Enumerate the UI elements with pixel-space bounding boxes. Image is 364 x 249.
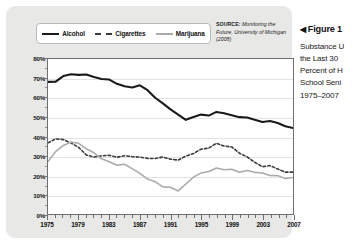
dashed-line-icon (95, 30, 112, 38)
x-tick-label: 2003 (256, 221, 269, 228)
x-tick-minor (70, 215, 71, 218)
x-tick-minor (186, 215, 187, 218)
x-axis-labels: 197519791983198719911995199920032007 (6, 221, 298, 233)
x-tick-minor (194, 215, 195, 218)
x-tick-label: 1991 (164, 221, 177, 228)
left-arrow-icon: ◀ (300, 25, 306, 34)
legend-item-marijuana: Marijuana (156, 30, 205, 38)
x-tick-minor (286, 215, 287, 218)
x-tick-major (78, 215, 79, 220)
x-tick-label: 1995 (195, 221, 208, 228)
x-tick-major (109, 215, 110, 220)
x-tick-minor (155, 215, 156, 218)
x-tick-minor (62, 215, 63, 218)
solid-dark-line-icon (42, 30, 59, 38)
x-tick-minor (248, 215, 249, 218)
x-tick-minor (240, 215, 241, 218)
chart-legend: Alcohol Cigarettes Marijuana (36, 23, 211, 44)
x-tick-label: 1983 (102, 221, 115, 228)
legend-label-marijuana: Marijuana (176, 30, 205, 37)
x-tick-minor (271, 215, 272, 218)
x-tick-major (232, 215, 233, 220)
legend-item-cigarettes: Cigarettes (95, 30, 145, 38)
series-lines (48, 59, 293, 214)
x-tick-label: 1999 (226, 221, 239, 228)
x-tick-label: 1975 (40, 221, 53, 228)
legend-label-cigarettes: Cigarettes (115, 30, 145, 37)
y-axis-labels: 80%70%60%50%40%30%20%10%0% (18, 52, 45, 222)
caption-line: Percent of H (300, 65, 364, 77)
x-tick-major (263, 215, 264, 220)
x-tick-major (294, 215, 295, 220)
caption-body: Substance Uthe Last 30 Percent of HSchoo… (300, 41, 364, 102)
legend-item-alcohol: Alcohol (42, 30, 85, 38)
caption-title: Figure 1 (308, 24, 342, 34)
series-line-cigarettes (48, 139, 293, 172)
solid-gray-line-icon (156, 30, 173, 38)
figure-screenshot: Alcohol Cigarettes Marijuana SOURCE: Mon… (0, 0, 364, 249)
x-tick-minor (116, 215, 117, 218)
x-tick-minor (178, 215, 179, 218)
x-tick-minor (225, 215, 226, 218)
x-tick-minor (147, 215, 148, 218)
caption-line: the Last 30 (300, 53, 364, 65)
x-tick-major (47, 215, 48, 220)
legend-label-alcohol: Alcohol (62, 30, 85, 37)
x-tick-label: 1987 (133, 221, 146, 228)
x-tick-minor (255, 215, 256, 218)
source-note-key: SOURCE: (216, 21, 240, 27)
figure-caption: ◀Figure 1 Substance Uthe Last 30 Percent… (300, 24, 364, 102)
x-tick-label: 2007 (287, 221, 300, 228)
x-tick-minor (217, 215, 218, 218)
x-tick-minor (101, 215, 102, 218)
caption-title-row: ◀Figure 1 (300, 24, 364, 34)
chart-panel: Alcohol Cigarettes Marijuana SOURCE: Mon… (6, 6, 292, 238)
x-tick-minor (209, 215, 210, 218)
x-tick-minor (55, 215, 56, 218)
source-note: SOURCE: Monitoring the Future, Universit… (216, 21, 290, 44)
x-tick-minor (86, 215, 87, 218)
series-line-alcohol (48, 74, 293, 128)
x-tick-major (201, 215, 202, 220)
caption-line: School Seni (300, 77, 364, 89)
x-axis-ticks (47, 215, 295, 220)
caption-line: Substance U (300, 41, 364, 53)
x-tick-major (140, 215, 141, 220)
x-tick-label: 1979 (71, 221, 84, 228)
x-tick-minor (163, 215, 164, 218)
x-tick-major (171, 215, 172, 220)
x-tick-minor (279, 215, 280, 218)
caption-line: 1975–2007 (300, 90, 364, 102)
x-tick-minor (124, 215, 125, 218)
x-tick-minor (93, 215, 94, 218)
series-line-marijuana (48, 142, 293, 191)
x-tick-minor (132, 215, 133, 218)
plot-area (47, 58, 294, 215)
